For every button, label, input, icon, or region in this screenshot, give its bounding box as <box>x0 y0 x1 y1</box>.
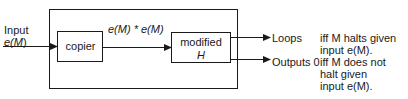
turing-diagram: Input e(M) copier e(M) * e(M) modified H… <box>0 0 408 99</box>
input-paren: ) <box>23 36 27 48</box>
output-zero-condition-2: halt given <box>320 68 367 80</box>
output-zero-label: Outputs 0 <box>272 56 320 68</box>
input-label-line1: Input <box>4 24 28 36</box>
modified-label-line2: H <box>171 49 231 61</box>
input-label-line2: e(M) <box>4 36 27 48</box>
input-e: e( <box>4 36 14 48</box>
modified-label-line1: modified <box>171 36 231 48</box>
edge-label: e(M) * e(M) <box>108 23 164 35</box>
input-m: M <box>14 36 23 48</box>
output-loops-condition-1: iff M halts given <box>320 32 396 44</box>
output-zero-condition-3: input e(M). <box>320 80 373 92</box>
output-zero-condition-1: iff M does not <box>320 56 386 68</box>
output-loops-label: Loops <box>272 32 302 44</box>
output-loops-condition-2: input e(M). <box>320 44 373 56</box>
copier-label: copier <box>58 40 103 52</box>
